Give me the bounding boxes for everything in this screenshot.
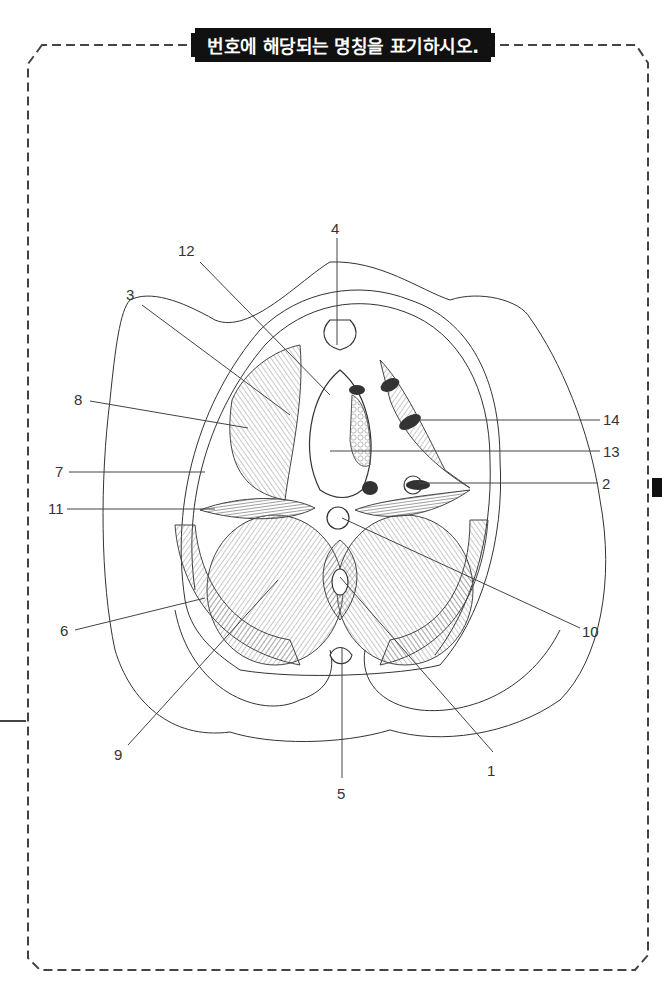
label-3: 3 [126,286,134,303]
label-7: 7 [55,463,63,480]
label-13: 13 [603,443,620,460]
label-5: 5 [337,785,345,802]
label-6: 6 [60,622,68,639]
label-2: 2 [602,475,610,492]
label-1: 1 [487,762,495,779]
label-4: 4 [331,220,339,237]
label-8: 8 [74,391,82,408]
label-12: 12 [178,242,195,259]
anatomy-diagram: 1 2 3 4 5 6 7 8 9 10 11 12 13 14 [0,0,662,985]
label-9: 9 [114,746,122,763]
label-11: 11 [48,500,64,517]
label-14: 14 [603,411,620,428]
label-10: 10 [582,623,599,640]
